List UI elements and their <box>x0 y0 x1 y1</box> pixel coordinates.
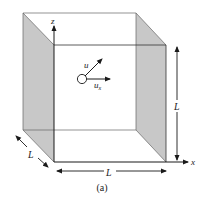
depth-dimension-label: L <box>27 149 34 160</box>
x-component-label-sub: x <box>98 85 102 91</box>
z-axis-label: z <box>50 16 55 26</box>
depth-dimension-arrow-upper <box>16 136 27 147</box>
depth-dimension-arrow-lower <box>38 158 48 167</box>
velocity-label: u <box>84 60 89 70</box>
width-dimension-label: L <box>105 167 112 178</box>
cube-diagram: z x u ux L L L (a) <box>0 0 205 204</box>
x-component-label: ux <box>94 80 102 91</box>
figure-caption: (a) <box>96 182 107 194</box>
x-axis-label: x <box>190 157 195 167</box>
height-dimension-label: L <box>173 101 180 112</box>
left-shaded-wall <box>23 13 54 162</box>
right-shaded-wall <box>136 13 166 162</box>
